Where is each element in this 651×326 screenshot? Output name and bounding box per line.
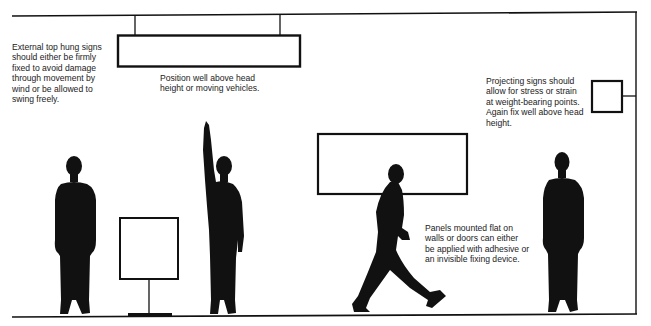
ceiling-line (12, 12, 637, 16)
position-above-note: Position well above head height or movin… (160, 73, 290, 94)
top-hung-sign-note: External top hung signs should either be… (12, 42, 120, 104)
projecting-sign-note: Projecting signs should allow for stress… (486, 76, 591, 128)
figure-standing-left (55, 156, 96, 314)
freestanding-sign (120, 218, 178, 316)
top-hung-sign (118, 15, 300, 67)
floor-line (12, 314, 637, 317)
projecting-sign (592, 81, 636, 112)
panels-note: Panels mounted flat on walls or doors ca… (425, 223, 550, 265)
figure-arm-raised (203, 121, 244, 314)
